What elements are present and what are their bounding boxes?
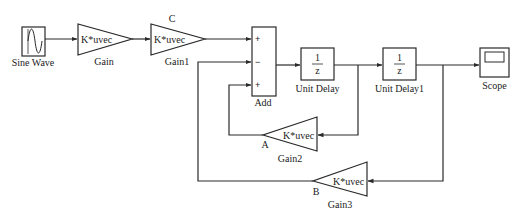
add-block[interactable]: + − + Add: [252, 27, 276, 108]
unit-delay1-label: Unit Delay1: [375, 83, 424, 94]
sine-wave-label: Sine Wave: [12, 57, 55, 68]
unit-delay1-block[interactable]: 1 z Unit Delay1: [375, 48, 424, 94]
gain-label: Gain: [94, 56, 113, 67]
add-sign-1: +: [255, 34, 260, 44]
gain2-param: K*uvec: [283, 130, 315, 141]
gain3-param: K*uvec: [333, 176, 365, 187]
gain2-block[interactable]: K*uvec A Gain2: [261, 117, 317, 164]
gain3-label: Gain3: [328, 199, 352, 210]
gain-param: K*uvec: [81, 34, 113, 45]
unit-delay-numerator: 1: [315, 52, 320, 63]
scope-block[interactable]: Scope: [480, 48, 509, 91]
gain-block[interactable]: K*uvec Gain: [78, 24, 132, 67]
add-label: Add: [254, 97, 271, 108]
unit-delay1-denominator: z: [397, 65, 402, 76]
gain3-block[interactable]: K*uvec B Gain3: [313, 162, 367, 210]
block-diagram-canvas: Sine Wave K*uvec Gain C K*uvec Gain1 + −…: [0, 0, 528, 219]
unit-delay1-numerator: 1: [397, 52, 402, 63]
add-sign-2: −: [255, 57, 260, 67]
scope-screen-icon: [485, 52, 504, 62]
unit-delay-block[interactable]: 1 z Unit Delay: [295, 48, 339, 94]
gain1-label: Gain1: [165, 56, 189, 67]
add-sign-3: +: [255, 80, 260, 90]
scope-label: Scope: [482, 80, 507, 91]
gain1-marker-c: C: [169, 13, 176, 24]
unit-delay-label: Unit Delay: [295, 83, 339, 94]
sine-wave-block[interactable]: Sine Wave: [12, 27, 55, 68]
gain2-marker-a: A: [261, 139, 269, 150]
gain3-marker-b: B: [313, 186, 320, 197]
gain1-param: K*uvec: [154, 34, 186, 45]
unit-delay-denominator: z: [315, 65, 320, 76]
gain1-block[interactable]: C K*uvec Gain1: [151, 13, 205, 67]
gain2-label: Gain2: [278, 153, 302, 164]
